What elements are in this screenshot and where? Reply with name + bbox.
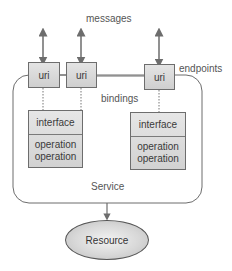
interface-box-1: interface operation operation bbox=[28, 110, 83, 168]
endpoint-uri-1: uri bbox=[28, 62, 60, 88]
service-label: Service bbox=[91, 181, 124, 193]
endpoint-uri-2: uri bbox=[66, 62, 97, 88]
resource-ellipse: Resource bbox=[65, 220, 149, 260]
interface-title: interface bbox=[29, 111, 82, 135]
endpoints-label: endpoints bbox=[179, 63, 222, 75]
operations-list: operation operation bbox=[29, 135, 82, 167]
interface-title: interface bbox=[131, 113, 185, 137]
operation-item: operation bbox=[35, 151, 77, 163]
operation-item: operation bbox=[35, 139, 77, 151]
operation-item: operation bbox=[137, 141, 179, 153]
messages-label: messages bbox=[86, 13, 132, 25]
bindings-label: bindings bbox=[101, 93, 138, 105]
operation-item: operation bbox=[137, 153, 179, 165]
interface-box-2: interface operation operation bbox=[130, 112, 186, 170]
resource-label: Resource bbox=[86, 235, 129, 246]
operations-list: operation operation bbox=[131, 137, 185, 169]
endpoint-uri-label: uri bbox=[38, 70, 49, 81]
endpoint-uri-3: uri bbox=[144, 64, 175, 90]
endpoint-uri-label: uri bbox=[154, 72, 165, 83]
endpoint-uri-label: uri bbox=[76, 70, 87, 81]
